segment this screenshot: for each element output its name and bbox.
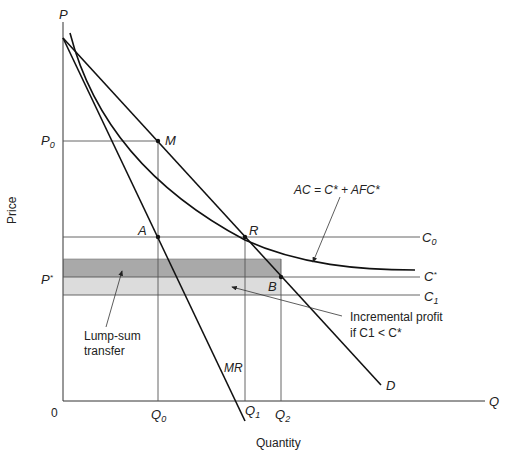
a-label: A <box>138 224 147 237</box>
pstar-label: P* <box>41 273 53 286</box>
q1-label: Q1 <box>245 404 260 420</box>
p0-label: P0 <box>41 134 55 150</box>
lump-sum-label-1: Lump-sum <box>84 330 141 342</box>
q0-label: Q0 <box>151 408 166 424</box>
point-a <box>156 235 160 239</box>
x-axis-label: Q <box>489 395 499 408</box>
incremental-label-1: Incremental profit <box>350 311 443 323</box>
point-b <box>279 275 283 279</box>
price-axis-title: Price <box>6 197 18 224</box>
y-axis-label: P <box>59 8 68 21</box>
m-label: M <box>165 134 176 147</box>
point-r <box>243 235 247 239</box>
d-label: D <box>386 379 395 392</box>
cstar-label: C* <box>424 270 437 283</box>
q2-label: Q2 <box>275 408 290 424</box>
lump-sum-label-2: transfer <box>84 345 125 357</box>
ac-equation-label: AC = C* + AFC* <box>294 184 380 196</box>
c0-label: C0 <box>422 231 436 247</box>
incremental-arrow <box>232 287 342 316</box>
quantity-axis-title: Quantity <box>256 437 301 449</box>
b-label: B <box>268 280 277 293</box>
ac-arrow <box>313 197 340 262</box>
r-label: R <box>249 224 258 237</box>
c1-label: C1 <box>424 290 438 306</box>
origin-label: 0 <box>51 407 58 419</box>
mr-curve <box>63 38 245 421</box>
point-m <box>156 139 160 143</box>
economics-diagram: P Q 0 Price Quantity P0 P* Q0 Q1 Q2 M A … <box>0 0 505 459</box>
incremental-profit-region <box>63 277 281 295</box>
mr-label: MR <box>224 362 243 374</box>
incremental-label-2: if C1 < C* <box>350 327 402 339</box>
